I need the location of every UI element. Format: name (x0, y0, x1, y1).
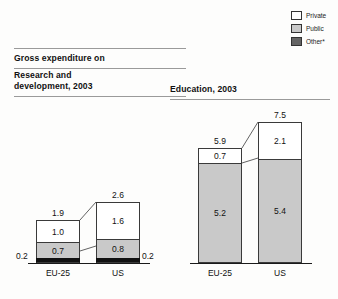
panel-title-research-line1: Research and (14, 70, 186, 81)
panel-title-education: Education, 2003 (170, 84, 330, 100)
figure-title: Gross expenditure on (14, 53, 186, 64)
panel-rule-education (170, 99, 330, 100)
bar-segment-private-us: 1.6 (96, 202, 140, 239)
plot-area-education: 0.7 5.2 5.9 2.1 5.4 7.5 EU-25 US (176, 110, 331, 290)
chart-figure: Private Public Other* Gross expenditure … (0, 0, 338, 299)
bar-value-public-education-eu25: 5.2 (214, 208, 226, 218)
bar-segment-public-education-us: 5.4 (258, 159, 302, 263)
legend-label-private: Private (306, 11, 326, 20)
bar-segment-private-eu25: 1.0 (36, 220, 80, 242)
axis-baseline-education (190, 263, 312, 264)
chart-research-development: 1.0 0.7 1.9 0.2 1.6 0.8 2.6 0.2 (14, 110, 174, 290)
plot-area-research: 1.0 0.7 1.9 0.2 1.6 0.8 2.6 0.2 (14, 110, 174, 290)
legend-swatch-other-icon (291, 37, 302, 46)
legend-item-public: Public (291, 23, 326, 33)
legend-label-public: Public (306, 24, 324, 33)
bar-value-private-eu25: 1.0 (52, 227, 64, 237)
bar-value-private-education-eu25: 0.7 (214, 151, 226, 161)
bar-value-private-education-us: 2.1 (274, 136, 286, 146)
legend-label-other: Other* (306, 37, 325, 46)
bar-other-label-research-us: 0.2 (142, 251, 154, 261)
bar-research-us: 1.6 0.8 (96, 202, 140, 263)
bar-segment-private-education-us: 2.1 (258, 122, 302, 159)
axis-label-research-eu25: EU-25 (32, 268, 84, 278)
bar-total-education-eu25: 5.9 (198, 136, 242, 146)
axis-baseline-research (28, 263, 150, 264)
axis-label-education-eu25: EU-25 (194, 268, 246, 278)
bar-research-eu25: 1.0 0.7 (36, 220, 80, 263)
bar-total-research-us: 2.6 (96, 190, 140, 200)
bar-education-us: 2.1 5.4 (258, 122, 302, 263)
header-rule-bottom (14, 68, 186, 69)
panel-title-research-line2: development, 2003 (14, 81, 186, 92)
header-rule-top (14, 48, 186, 49)
bar-value-public-us: 0.8 (112, 244, 124, 254)
chart-legend: Private Public Other* (291, 10, 326, 46)
bar-value-private-us: 1.6 (112, 216, 124, 226)
legend-item-private: Private (291, 10, 326, 20)
figure-header: Gross expenditure on (14, 48, 186, 69)
panel-title-education-text: Education, 2003 (170, 84, 330, 95)
bar-segment-public-education-eu25: 5.2 (198, 163, 242, 263)
chart-education: 0.7 5.2 5.9 2.1 5.4 7.5 EU-25 US (176, 110, 331, 290)
legend-item-other: Other* (291, 36, 326, 46)
legend-swatch-public-icon (291, 24, 302, 33)
axis-label-education-us: US (254, 268, 306, 278)
bar-total-research-eu25: 1.9 (36, 208, 80, 218)
bar-total-education-us: 7.5 (258, 110, 302, 120)
bar-value-public-eu25: 0.7 (52, 246, 64, 256)
axis-label-research-us: US (92, 268, 144, 278)
panel-title-research: Research and development, 2003 (14, 70, 186, 97)
bar-segment-public-eu25: 0.7 (36, 242, 80, 258)
bar-education-eu25: 0.7 5.2 (198, 148, 242, 263)
bar-value-public-education-us: 5.4 (274, 206, 286, 216)
legend-swatch-private-icon (291, 11, 302, 20)
bar-other-label-research-eu25: 0.2 (16, 251, 28, 261)
bar-segment-private-education-eu25: 0.7 (198, 148, 242, 163)
bar-segment-public-us: 0.8 (96, 239, 140, 258)
panel-rule-research (14, 96, 186, 97)
